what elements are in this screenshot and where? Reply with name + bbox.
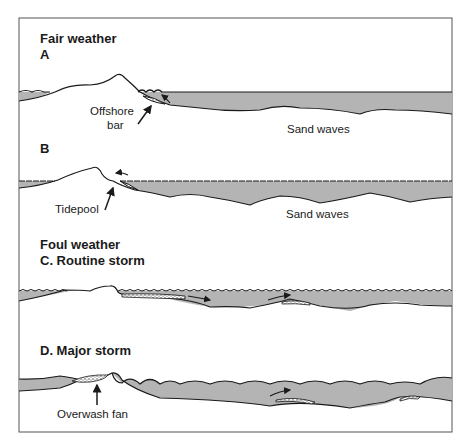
offshore-bar-label-line2: bar: [107, 119, 124, 131]
figure-frame: [19, 18, 452, 432]
overwash-fan-label: Overwash fan: [57, 408, 128, 420]
panel-c-profile: [19, 286, 452, 311]
panel-a-profile: [19, 74, 452, 124]
panel-c-title: C. Routine storm: [40, 253, 145, 268]
offshore-bar-label-line1: Offshore: [90, 105, 134, 117]
panel-d-title: D. Major storm: [40, 343, 131, 358]
sand-waves-label-b: Sand waves: [286, 208, 349, 220]
fair-weather-heading: Fair weather: [40, 31, 117, 46]
sand-waves-label-a: Sand waves: [287, 123, 350, 135]
panel-b-title: B: [40, 141, 49, 156]
panel-d-profile: [19, 373, 452, 408]
panel-a-title: A: [40, 47, 49, 62]
beach-profile-diagram: [0, 0, 472, 448]
tidepool-label: Tidepool: [55, 203, 99, 215]
foul-weather-heading: Foul weather: [40, 237, 120, 252]
